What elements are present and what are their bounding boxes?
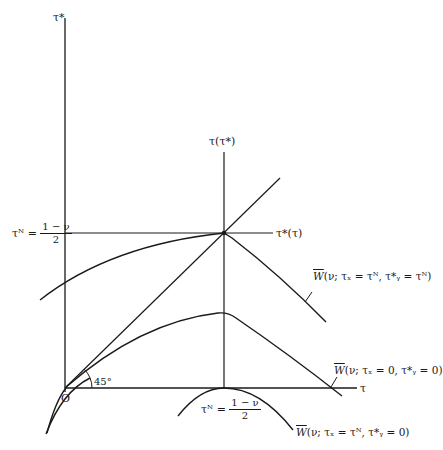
nash-point bbox=[222, 231, 227, 236]
welfare-symbol: W bbox=[296, 426, 307, 438]
nash-fraction: 1 − ν 2 bbox=[40, 222, 71, 245]
curve-label-lower: W(ν; τₓ = τᴺ, τ*ᵧ = 0) bbox=[296, 427, 409, 438]
nash-denominator: 2 bbox=[242, 410, 248, 421]
nash-lhs: τᴺ = bbox=[12, 227, 37, 240]
curve-label-middle: W(ν; τₓ = 0, τ*ᵧ = 0) bbox=[334, 365, 443, 376]
nash-fraction: 1 − ν 2 bbox=[229, 398, 260, 421]
curve-label-text: (ν; τₓ = τᴺ, τ*ᵧ = τᴺ) bbox=[324, 270, 432, 282]
curve-upper bbox=[40, 233, 326, 322]
curve-label-text: (ν; τₓ = 0, τ*ᵧ = 0) bbox=[345, 364, 443, 376]
curve-label-upper: W(ν; τₓ = τᴺ, τ*ᵧ = τᴺ) bbox=[313, 271, 431, 282]
origin-label: O bbox=[61, 393, 70, 404]
leader-upper bbox=[305, 292, 312, 302]
welfare-symbol: W bbox=[334, 364, 345, 376]
angle-label: 45° bbox=[94, 377, 112, 387]
nash-numerator: 1 − ν bbox=[229, 398, 260, 410]
diagonal-45-line bbox=[65, 178, 280, 388]
nash-value-label-horizontal: τᴺ = 1 − ν 2 bbox=[201, 398, 261, 421]
nash-denominator: 2 bbox=[53, 234, 59, 245]
nash-lhs: τᴺ = bbox=[201, 403, 226, 416]
reaction-horizontal-label: τ*(τ) bbox=[276, 228, 302, 239]
nash-numerator: 1 − ν bbox=[40, 222, 71, 234]
horizontal-axis-label: τ bbox=[360, 383, 366, 394]
curve-label-text: (ν; τₓ = τᴺ, τ*ᵧ = 0) bbox=[307, 426, 410, 438]
nash-value-label-vertical: τᴺ = 1 − ν 2 bbox=[12, 222, 72, 245]
reaction-vertical-label: τ(τ*) bbox=[209, 136, 235, 147]
vertical-axis-label: τ* bbox=[53, 12, 65, 23]
welfare-symbol: W bbox=[313, 270, 324, 282]
leader-middle bbox=[331, 377, 337, 387]
